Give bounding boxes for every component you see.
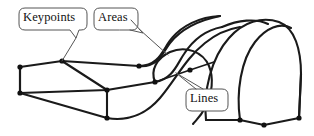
- geometry-diagram: Keypoints Areas Lines: [0, 0, 314, 136]
- callout-areas-leader: [139, 29, 168, 55]
- arch-right-end-edge: [299, 74, 301, 118]
- keypoint-dot: [187, 67, 192, 72]
- callout-label-keypoints: Keypoints: [23, 11, 75, 24]
- callout-label-lines: Lines: [190, 92, 218, 105]
- callout-lines-tail: [176, 73, 203, 89]
- keypoint-dot: [237, 117, 242, 122]
- callout-label-areas: Areas: [98, 11, 128, 24]
- keypoint-dot: [17, 64, 22, 69]
- slab-top-face-edges: [20, 61, 107, 93]
- keypoint-dot: [17, 90, 22, 95]
- keypoint-markers: [17, 58, 301, 127]
- keypoint-dot: [136, 63, 141, 68]
- keypoint-dot: [104, 115, 109, 120]
- keypoint-dot: [104, 87, 109, 92]
- slab-front-bottom-edge: [20, 93, 107, 118]
- keypoint-dot: [152, 79, 157, 84]
- arch-inner-left-limb: [153, 49, 211, 124]
- callout-lines-leader: [176, 73, 196, 89]
- keypoint-dot: [296, 115, 301, 120]
- arch-outer-back-curve: [239, 26, 291, 120]
- keypoint-dot: [261, 122, 266, 127]
- callout-keypoints-leader: [62, 38, 76, 61]
- slab-solid: [20, 61, 107, 118]
- arch-front-bottom-edge: [240, 118, 299, 125]
